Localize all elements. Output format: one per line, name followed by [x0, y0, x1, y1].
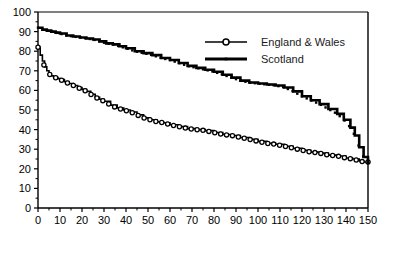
marker-open-circle	[283, 144, 287, 148]
marker-open-circle	[118, 107, 122, 111]
marker-tick	[56, 32, 58, 34]
x-tick-label: 80	[208, 214, 220, 226]
marker-open-circle	[189, 127, 193, 131]
marker-tick	[216, 72, 218, 74]
marker-open-circle	[301, 148, 305, 152]
marker-tick	[353, 133, 355, 135]
marker-open-circle	[260, 140, 264, 144]
marker-tick	[211, 70, 213, 72]
marker-tick	[51, 31, 53, 33]
marker-open-circle	[207, 129, 211, 133]
marker-open-circle	[83, 89, 87, 93]
marker-open-circle	[201, 128, 205, 132]
chart-container: 0102030405060708090100010203040506070809…	[0, 0, 393, 263]
marker-tick	[202, 68, 204, 70]
marker-tick	[348, 125, 350, 127]
marker-open-circle	[89, 92, 93, 96]
marker-tick	[117, 45, 119, 47]
marker-open-circle	[289, 146, 293, 150]
marker-tick	[178, 62, 180, 64]
marker-tick	[46, 30, 48, 32]
marker-tick	[310, 99, 312, 101]
marker-tick	[343, 119, 345, 121]
x-tick-label: 110	[271, 214, 289, 226]
chart-legend: England & WalesScotland	[205, 36, 345, 65]
y-tick-label: 70	[19, 65, 31, 77]
legend-label-scotland: Scotland	[261, 53, 304, 65]
marker-open-circle	[148, 118, 152, 122]
x-tick-label: 140	[337, 214, 355, 226]
marker-tick	[244, 81, 246, 83]
legend-marker-tick	[225, 58, 228, 61]
marker-open-circle	[77, 86, 81, 90]
legend-marker-open-circle	[223, 39, 229, 45]
x-tick-label: 20	[76, 214, 88, 226]
marker-open-circle	[101, 99, 105, 103]
marker-open-circle	[195, 128, 199, 132]
marker-tick	[235, 78, 237, 80]
marker-open-circle	[295, 147, 299, 151]
marker-open-circle	[224, 133, 228, 137]
x-tick-label: 130	[315, 214, 333, 226]
y-tick-label: 80	[19, 45, 31, 57]
x-tick-label: 120	[293, 214, 311, 226]
marker-tick	[84, 37, 86, 39]
x-tick-label: 70	[186, 214, 198, 226]
marker-open-circle	[171, 123, 175, 127]
marker-tick	[277, 85, 279, 87]
marker-open-circle	[65, 81, 69, 85]
marker-tick	[70, 35, 72, 37]
marker-tick	[320, 104, 322, 106]
marker-tick	[155, 55, 157, 57]
marker-tick	[254, 82, 256, 84]
marker-tick	[221, 73, 223, 75]
marker-tick	[367, 162, 369, 164]
marker-tick	[112, 43, 114, 45]
y-tick-label: 40	[19, 124, 31, 136]
marker-open-circle	[177, 125, 181, 129]
marker-open-circle	[331, 153, 335, 157]
marker-tick	[225, 75, 227, 77]
marker-tick	[122, 46, 124, 48]
marker-tick	[296, 92, 298, 94]
marker-tick	[164, 58, 166, 60]
marker-tick	[197, 67, 199, 69]
marker-tick	[301, 95, 303, 97]
marker-tick	[282, 86, 284, 88]
marker-open-circle	[254, 139, 258, 143]
marker-open-circle	[360, 160, 364, 164]
marker-tick	[362, 155, 364, 157]
marker-tick	[268, 84, 270, 86]
marker-open-circle	[71, 83, 75, 87]
marker-open-circle	[336, 154, 340, 158]
marker-tick	[192, 66, 194, 68]
marker-open-circle	[54, 76, 58, 80]
marker-open-circle	[313, 151, 317, 155]
marker-open-circle	[160, 120, 164, 124]
marker-open-circle	[107, 102, 111, 106]
marker-open-circle	[266, 141, 270, 145]
marker-tick	[136, 50, 138, 52]
marker-tick	[315, 101, 317, 103]
marker-open-circle	[278, 143, 282, 147]
y-tick-label: 90	[19, 26, 31, 38]
marker-open-circle	[166, 122, 170, 126]
marker-tick	[357, 144, 359, 146]
marker-tick	[93, 39, 95, 41]
marker-open-circle	[130, 111, 134, 115]
marker-tick	[291, 90, 293, 92]
marker-tick	[103, 42, 105, 44]
marker-tick	[329, 109, 331, 111]
marker-tick	[89, 38, 91, 40]
y-tick-label: 0	[25, 202, 31, 214]
x-tick-label: 0	[35, 214, 41, 226]
marker-tick	[60, 33, 62, 35]
marker-open-circle	[213, 131, 217, 135]
marker-open-circle	[272, 142, 276, 146]
marker-tick	[339, 115, 341, 117]
marker-open-circle	[348, 157, 352, 161]
x-tick-label: 30	[98, 214, 110, 226]
marker-tick	[287, 88, 289, 90]
marker-tick	[240, 79, 242, 81]
marker-tick	[141, 52, 143, 54]
